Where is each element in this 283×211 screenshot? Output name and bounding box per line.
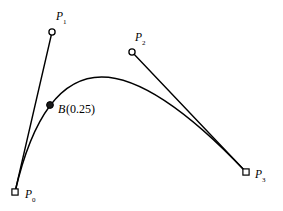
- control-point-marker-p1[interactable]: [49, 29, 55, 35]
- bezier-diagram-canvas: P 0 P 1 P 2 P 3 B (0.25): [0, 0, 283, 211]
- control-point-subscript-p0: 0: [32, 196, 36, 204]
- control-point-subscript-p2: 2: [142, 39, 146, 47]
- control-point-marker-p2[interactable]: [129, 49, 135, 55]
- evaluated-point-marker-b025[interactable]: [47, 102, 54, 109]
- evaluated-point-label-b: B: [58, 102, 66, 116]
- control-point-label-p1: P: [55, 10, 63, 22]
- control-point-label-p2: P: [134, 31, 142, 43]
- control-point-subscript-p3: 3: [262, 176, 266, 184]
- control-point-label-p3: P: [254, 168, 262, 180]
- control-point-subscript-p1: 1: [63, 18, 67, 26]
- evaluated-point-label-parameter: (0.25): [66, 102, 95, 116]
- control-point-label-p0: P: [24, 188, 32, 200]
- control-point-marker-p3[interactable]: [243, 169, 249, 175]
- bezier-diagram-svg: P 0 P 1 P 2 P 3 B (0.25): [0, 0, 283, 211]
- control-point-marker-p0[interactable]: [12, 189, 18, 195]
